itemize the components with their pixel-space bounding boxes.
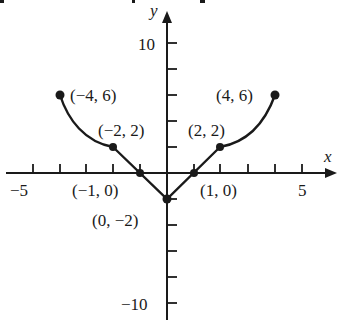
point-0-m2	[163, 195, 172, 204]
point-m4-6	[56, 91, 65, 100]
point-1-0	[190, 169, 198, 177]
point-label-m1-0: (−1, 0)	[72, 181, 118, 200]
point-m2-2	[109, 143, 117, 151]
point-label-0-m2: (0, −2)	[92, 211, 138, 230]
function-graph: y x 10 −10 −5 5 (−4, 6) (−2, 2) (−1, 0) …	[0, 0, 339, 320]
x-axis-arrow-icon	[325, 168, 337, 178]
y-tick-label-10: 10	[138, 35, 155, 54]
cropped-caption-fragment	[0, 0, 205, 3]
y-tick-label-neg10: −10	[121, 295, 148, 314]
point-label-4-6: (4, 6)	[216, 86, 253, 105]
x-tick-label-neg5: −5	[10, 181, 28, 200]
y-axis-arrow-icon	[162, 11, 172, 23]
point-label-m4-6: (−4, 6)	[70, 86, 116, 105]
point-4-6	[271, 91, 280, 100]
x-axis-label: x	[323, 147, 332, 166]
y-axis-label: y	[148, 1, 158, 20]
point-label-m2-2: (−2, 2)	[98, 121, 144, 140]
point-label-1-0: (1, 0)	[200, 181, 237, 200]
point-2-2	[216, 143, 224, 151]
point-label-2-2: (2, 2)	[188, 121, 225, 140]
x-tick-label-5: 5	[298, 181, 307, 200]
point-m1-0	[136, 169, 144, 177]
